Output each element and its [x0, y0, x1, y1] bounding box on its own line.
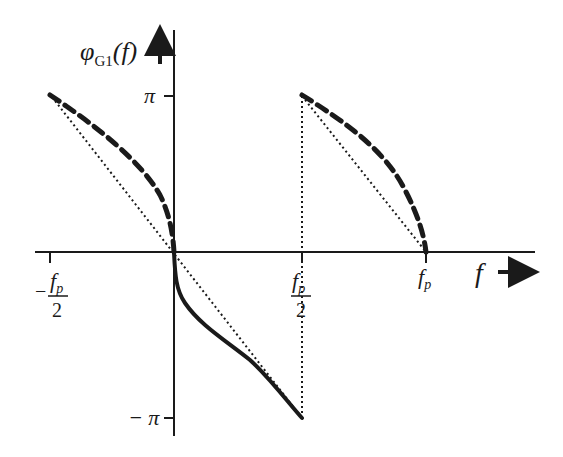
y-tick-label-pi: π: [144, 83, 156, 108]
svg-text:2: 2: [296, 299, 306, 321]
svg-text:−: −: [35, 280, 46, 302]
x-tick-label-fp: fp: [418, 264, 431, 292]
svg-text:fp: fp: [50, 268, 63, 296]
dotted-linear-phase-second: [302, 96, 426, 252]
y-tick-label-neg-pi: − π: [128, 405, 160, 430]
phase-diagram: φG1(f) π − π − fp 2 fp 2 fp f: [0, 0, 563, 457]
x-tick-label-half-fp: fp 2: [291, 268, 311, 321]
svg-text:2: 2: [52, 299, 62, 321]
solid-phase-curve: [174, 252, 302, 418]
dotted-linear-phase-main: [52, 97, 302, 418]
x-tick-label-neg-half-fp: − fp 2: [35, 268, 68, 321]
dashed-curve-left: [50, 95, 174, 252]
dashed-curve-right: [302, 95, 426, 252]
y-axis-label: φG1(f): [80, 37, 137, 69]
svg-text:fp: fp: [292, 268, 305, 296]
x-axis-label: f: [475, 257, 486, 288]
